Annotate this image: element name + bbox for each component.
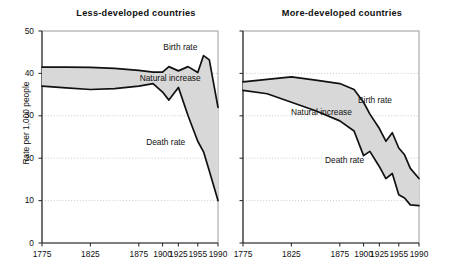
y-tick-label-20: 20 — [12, 153, 34, 163]
y-tick-label-40: 40 — [12, 68, 34, 78]
x-tick-label-1875-panel0: 1875 — [129, 249, 148, 259]
x-tick-label-1925-panel0: 1925 — [169, 249, 188, 259]
x-tick-label-1825-panel1: 1825 — [282, 249, 301, 259]
x-tick-label-1955-panel1: 1955 — [389, 249, 408, 259]
x-tick-label-1775-panel0: 1775 — [33, 249, 52, 259]
x-tick-label-1990-panel1: 1990 — [410, 249, 429, 259]
x-tick-label-1875-panel1: 1875 — [330, 249, 349, 259]
x-tick-label-1825-panel0: 1825 — [81, 249, 100, 259]
y-tick-label-50: 50 — [12, 26, 34, 36]
x-tick-label-1955-panel0: 1955 — [188, 249, 207, 259]
figure-root: Less-developed countries More-developed … — [0, 0, 460, 272]
annotation-birth-rate-panel1: Birth rate — [358, 95, 392, 105]
annotation-birth-rate-panel0: Birth rate — [163, 42, 197, 52]
annotation-natural-increase-panel1: Natural increase — [291, 107, 352, 117]
annotation-death-rate-panel0: Death rate — [146, 137, 185, 147]
annotation-natural-increase-panel0: Natural increase — [140, 73, 201, 83]
plot-canvas — [0, 0, 460, 272]
x-tick-label-1775-panel1: 1775 — [234, 249, 253, 259]
y-tick-label-0: 0 — [12, 238, 34, 248]
y-tick-label-10: 10 — [12, 195, 34, 205]
natural-increase-band-1 — [243, 77, 419, 206]
plot-frame-0 — [42, 31, 218, 243]
y-tick-label-30: 30 — [12, 110, 34, 120]
annotation-death-rate-panel1: Death rate — [325, 155, 364, 165]
x-tick-label-1990-panel0: 1990 — [209, 249, 228, 259]
x-tick-label-1925-panel1: 1925 — [370, 249, 389, 259]
